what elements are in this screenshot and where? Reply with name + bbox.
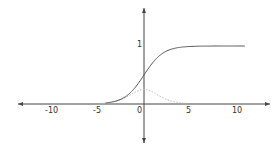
x-tick-label-10: 10 xyxy=(232,106,242,115)
y-axis-arrow-down-icon xyxy=(142,138,146,143)
x-tick-label-neg5: -5 xyxy=(93,106,101,115)
chart: 1 -10 -5 0 5 10 xyxy=(0,0,280,152)
x-axis-arrow-right-icon xyxy=(265,102,270,106)
sigmoid-curve xyxy=(106,46,245,103)
x-tick-label-5: 5 xyxy=(186,106,191,115)
x-tick-label-neg10: -10 xyxy=(45,106,58,115)
x-axis-arrow-left-icon xyxy=(18,102,23,106)
y-tick-label-1: 1 xyxy=(137,40,142,49)
x-tick-label-0: 0 xyxy=(137,106,142,115)
y-axis-arrow-up-icon xyxy=(142,8,146,13)
